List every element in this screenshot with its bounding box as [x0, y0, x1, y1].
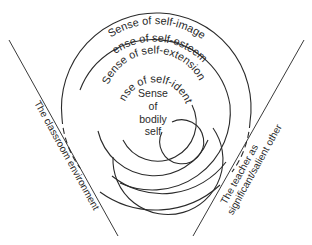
label-self-esteem: Sense of self-esteem: [0, 0, 210, 64]
ring-self-esteem-lower: [112, 162, 226, 194]
ring-self-extension-lower: [98, 131, 208, 176]
center-label-line2: of: [149, 100, 158, 112]
left-boundary-label: The classroom environment: [32, 99, 102, 212]
center-label-line3: bodily: [139, 113, 167, 125]
right-boundary-line: [193, 40, 304, 236]
center-label-line4: self: [145, 125, 161, 137]
center-label-line1: Sense: [138, 87, 168, 99]
self-spiral-diagram: Sense of self-image Sense of self-esteem…: [0, 0, 312, 245]
ring-self-image-lower: [100, 185, 220, 210]
right-boundary-label: The teacher as significant/salient other: [215, 116, 284, 216]
ring-self-extension: [113, 128, 223, 215]
